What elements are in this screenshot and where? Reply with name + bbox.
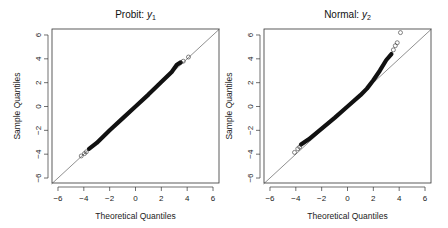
x-axis: −6−4−20246 bbox=[265, 187, 427, 203]
y-tick-label: 4 bbox=[246, 56, 255, 61]
x-tick-label: 4 bbox=[185, 194, 190, 203]
plot-title: Normal: y2 bbox=[324, 9, 371, 21]
x-tick-label: 2 bbox=[159, 194, 164, 203]
y-tick-label: 2 bbox=[246, 80, 255, 85]
y-tick-label: −4 bbox=[246, 149, 255, 159]
x-tick-label: 0 bbox=[133, 194, 138, 203]
y-tick-label: 0 bbox=[246, 104, 255, 109]
y-tick-label: −6 bbox=[246, 173, 255, 183]
x-tick-label: −4 bbox=[79, 194, 89, 203]
y-tick-label: 6 bbox=[246, 32, 255, 37]
y-tick-label: 0 bbox=[34, 104, 43, 109]
y-tick-label: −6 bbox=[34, 173, 43, 183]
y-tick-label: −2 bbox=[246, 125, 255, 135]
x-tick-label: 0 bbox=[345, 194, 350, 203]
x-tick-label: 4 bbox=[397, 194, 402, 203]
y-tick-label: −4 bbox=[34, 149, 43, 159]
x-tick-label: 6 bbox=[423, 194, 428, 203]
y-tick-label: 4 bbox=[34, 56, 43, 61]
qq-plots-svg: Probit: y1 −6−4−20246 −6−4−20246 Theoret… bbox=[0, 0, 448, 228]
plot-title: Probit: y1 bbox=[115, 9, 156, 21]
y-tick-label: 6 bbox=[34, 32, 43, 37]
x-tick-label: −6 bbox=[53, 194, 63, 203]
x-tick-label: −6 bbox=[265, 194, 275, 203]
y-axis: −6−4−20246 bbox=[34, 32, 48, 182]
x-tick-label: −2 bbox=[105, 194, 115, 203]
y-tick-label: −2 bbox=[34, 125, 43, 135]
qq-plot-probit: Probit: y1 −6−4−20246 −6−4−20246 Theoret… bbox=[12, 9, 219, 221]
y-axis-label: Sample Quantiles bbox=[12, 72, 22, 139]
data-points bbox=[293, 31, 403, 155]
x-tick-label: −2 bbox=[317, 194, 327, 203]
y-axis-label: Sample Quantiles bbox=[224, 72, 234, 139]
x-tick-label: −4 bbox=[291, 194, 301, 203]
qq-plot-figure: Probit: y1 −6−4−20246 −6−4−20246 Theoret… bbox=[0, 0, 448, 228]
data-points bbox=[79, 55, 190, 158]
qq-plot-normal: Normal: y2 −6−4−20246 −6−4−20246 Theoret… bbox=[224, 9, 431, 221]
y-axis: −6−4−20246 bbox=[246, 32, 260, 182]
x-axis-label: Theoretical Quantiles bbox=[95, 211, 175, 221]
x-tick-label: 2 bbox=[371, 194, 376, 203]
x-axis-label: Theoretical Quantiles bbox=[307, 211, 387, 221]
x-axis: −6−4−20246 bbox=[53, 187, 215, 203]
x-tick-label: 6 bbox=[211, 194, 216, 203]
y-tick-label: 2 bbox=[34, 80, 43, 85]
